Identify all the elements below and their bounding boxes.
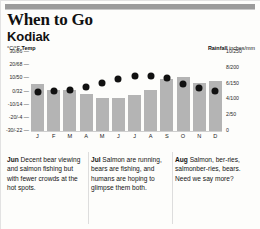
month-axis-labels: JFMAMJJASOND (31, 133, 222, 142)
chart-plot-area (31, 52, 222, 131)
rainfall-bar (128, 95, 141, 131)
chart-month-slot (209, 52, 222, 131)
month-label: J (31, 133, 44, 142)
chart-month-slot (160, 52, 173, 131)
right-axis-tick: 6/150 (226, 81, 239, 86)
chart-baseline (31, 131, 222, 132)
page-title: When to Go (7, 10, 93, 30)
month-label: O (177, 133, 190, 142)
notes-columns: Jun Decent bear viewing and salmon fishi… (7, 155, 255, 192)
temperature-dot (66, 86, 73, 93)
note-month: Aug (175, 156, 188, 163)
chart-month-slot (80, 52, 93, 131)
legend-rainfall-label: Rainfall (208, 45, 227, 51)
left-axis-tick: 0/32 — (0, 89, 29, 94)
chart-month-slot (193, 52, 206, 131)
month-label: J (128, 133, 141, 142)
left-axis-tick: -30/-22 — (0, 128, 29, 133)
temperature-dot (131, 72, 138, 79)
month-label: A (80, 133, 93, 142)
month-label: A (144, 133, 157, 142)
month-label: S (160, 133, 173, 142)
chart-month-slot (31, 52, 44, 131)
temperature-dot (212, 87, 219, 94)
temperature-dot (163, 75, 170, 82)
rainfall-bar (144, 90, 157, 131)
temperature-dot (115, 76, 122, 83)
chart-month-slot (112, 52, 125, 131)
chart-series-container (31, 52, 222, 131)
temperature-dot (34, 88, 41, 95)
rainfall-bar (80, 94, 93, 131)
temperature-dot (147, 72, 154, 79)
note-column: Jun Decent bear viewing and salmon fishi… (7, 155, 84, 192)
month-label: M (96, 133, 109, 142)
left-axis-tick: 10/50 — (0, 75, 29, 80)
temperature-dot (50, 87, 57, 94)
chart-month-slot (144, 52, 157, 131)
rainfall-bar (96, 98, 109, 131)
month-label: F (47, 133, 60, 142)
left-axis-tick: -10/14 — (0, 102, 29, 107)
rainfall-bar (47, 90, 60, 131)
note-column: Aug Salmon, ber-ries, salmonber-ries, be… (175, 155, 252, 192)
note-column: Jul Salmon are running, bears are fishin… (91, 155, 168, 192)
right-axis-tick: 8/200 (226, 65, 239, 70)
month-label: J (112, 133, 125, 142)
temperature-dot (180, 80, 187, 87)
chart-month-slot (96, 52, 109, 131)
chart-month-slot (63, 52, 76, 131)
rainfall-bar (63, 90, 76, 131)
temperature-dot (83, 83, 90, 90)
when-to-go-infographic: When to Go Kodiak °C/°F Temp Rainfall in… (0, 0, 260, 229)
note-month: Jul (91, 156, 101, 163)
note-month: Jun (7, 156, 19, 163)
chart-month-slot (47, 52, 60, 131)
month-label: M (63, 133, 76, 142)
note-text: Decent bear viewing and salmon fishing b… (7, 156, 80, 191)
right-axis-tick: 2/50 (226, 112, 236, 117)
temperature-dot (196, 84, 203, 91)
chart-month-slot (128, 52, 141, 131)
rainfall-bar (112, 98, 125, 131)
chart-month-slot (177, 52, 190, 131)
left-axis-tick: -20/-4 — (0, 115, 29, 120)
right-axis-tick: 4/100 (226, 96, 239, 101)
right-axis-tick: 0 (226, 128, 229, 133)
month-label: N (193, 133, 206, 142)
right-axis-tick: 10/250 (226, 49, 242, 54)
temperature-dot (99, 79, 106, 86)
left-axis-tick: 30/86 — (0, 49, 29, 54)
left-axis-tick: 20/68 — (0, 62, 29, 67)
page-subtitle: Kodiak (7, 29, 50, 44)
rainfall-bar (160, 79, 173, 131)
note-text: Salmon are running, bears are fishing, a… (91, 156, 162, 191)
month-label: D (209, 133, 222, 142)
